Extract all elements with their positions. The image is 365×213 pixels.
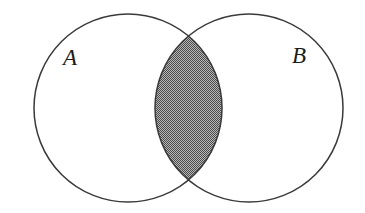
venn-diagram-canvas: A B xyxy=(0,0,365,213)
set-a-label: A xyxy=(61,45,78,70)
venn-diagram-figure: A B xyxy=(0,0,365,213)
set-b-label: B xyxy=(292,43,306,68)
